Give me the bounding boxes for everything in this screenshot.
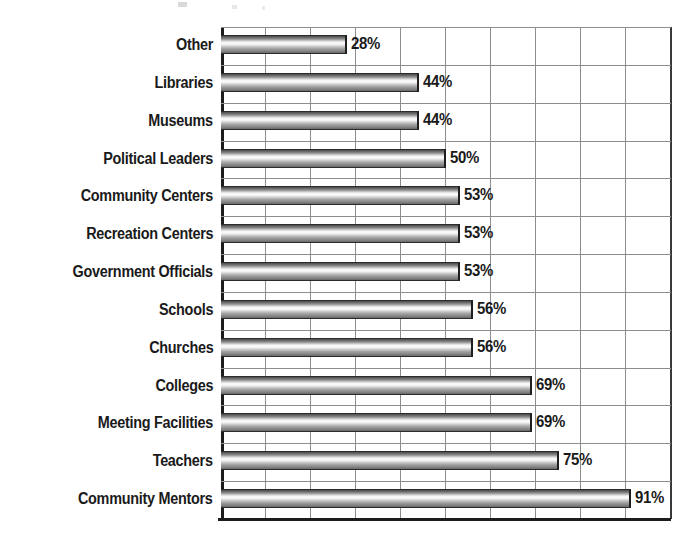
bar-row[interactable]: 50%: [221, 141, 671, 176]
category-label-text: Museums: [148, 111, 213, 130]
bar-row[interactable]: 44%: [221, 103, 671, 138]
bar[interactable]: [221, 111, 419, 130]
bar[interactable]: [221, 149, 446, 168]
bar[interactable]: [221, 262, 460, 281]
bar-value-label: 50%: [450, 148, 479, 168]
category-label-text: Libraries: [155, 73, 213, 92]
bar-row[interactable]: 28%: [221, 27, 671, 62]
category-label: Museums: [1, 111, 213, 130]
category-label-text: Colleges: [155, 376, 213, 395]
category-label: Government Officials: [1, 262, 213, 281]
bar-row[interactable]: 69%: [221, 368, 671, 403]
bar-value-label: 44%: [423, 110, 452, 130]
bar-row[interactable]: 44%: [221, 65, 671, 100]
bar[interactable]: [221, 489, 631, 508]
bar[interactable]: [221, 376, 532, 395]
bar-row[interactable]: 69%: [221, 405, 671, 440]
category-label: Community Centers: [1, 186, 213, 205]
category-label: Libraries: [1, 73, 213, 92]
category-label: Teachers: [1, 451, 213, 470]
category-label-text: Government Officials: [73, 262, 213, 281]
x-axis-line: [218, 518, 671, 521]
bar-value-label: 91%: [635, 488, 664, 508]
bar-row[interactable]: 56%: [221, 292, 671, 327]
category-label-text: Meeting Facilities: [98, 413, 213, 432]
horizontal-bar-chart: OtherLibrariesMuseumsPolitical LeadersCo…: [0, 0, 683, 534]
category-label: Community Mentors: [1, 489, 213, 508]
category-label: Meeting Facilities: [1, 413, 213, 432]
category-label-text: Other: [176, 35, 213, 54]
category-label: Political Leaders: [1, 149, 213, 168]
category-label: Churches: [1, 338, 213, 357]
category-label-text: Recreation Centers: [86, 224, 213, 243]
bar-value-label: 44%: [423, 72, 452, 92]
category-label-text: Teachers: [153, 451, 213, 470]
bar-row[interactable]: 53%: [221, 216, 671, 251]
bar-value-label: 53%: [464, 185, 493, 205]
bar-value-label: 53%: [464, 261, 493, 281]
bar[interactable]: [221, 300, 473, 319]
category-label-text: Community Mentors: [78, 489, 213, 508]
bar-row[interactable]: 53%: [221, 178, 671, 213]
category-label-text: Community Centers: [81, 186, 213, 205]
bar-value-label: 53%: [464, 223, 493, 243]
bar-row[interactable]: 91%: [221, 481, 671, 516]
bar-row[interactable]: 56%: [221, 330, 671, 365]
category-axis-labels: OtherLibrariesMuseumsPolitical LeadersCo…: [0, 27, 213, 519]
bar[interactable]: [221, 451, 559, 470]
bar[interactable]: [221, 413, 532, 432]
bar[interactable]: [221, 338, 473, 357]
bar-value-label: 75%: [563, 450, 592, 470]
category-label-text: Churches: [149, 338, 213, 357]
bar-value-label: 56%: [477, 337, 506, 357]
category-label-text: Political Leaders: [103, 149, 213, 168]
bar-value-label: 56%: [477, 299, 506, 319]
category-label-text: Schools: [159, 300, 213, 319]
category-label: Recreation Centers: [1, 224, 213, 243]
bar[interactable]: [221, 35, 347, 54]
bar-value-label: 69%: [536, 375, 565, 395]
bar[interactable]: [221, 73, 419, 92]
bar[interactable]: [221, 186, 460, 205]
category-label: Schools: [1, 300, 213, 319]
category-label: Other: [1, 35, 213, 54]
bar-value-label: 69%: [536, 412, 565, 432]
category-label: Colleges: [1, 376, 213, 395]
bar[interactable]: [221, 224, 460, 243]
bar-row[interactable]: 75%: [221, 443, 671, 478]
bar-value-label: 28%: [351, 34, 380, 54]
plot-area: 28%44%44%50%53%53%53%56%56%69%69%75%91%: [221, 27, 671, 519]
bar-row[interactable]: 53%: [221, 254, 671, 289]
